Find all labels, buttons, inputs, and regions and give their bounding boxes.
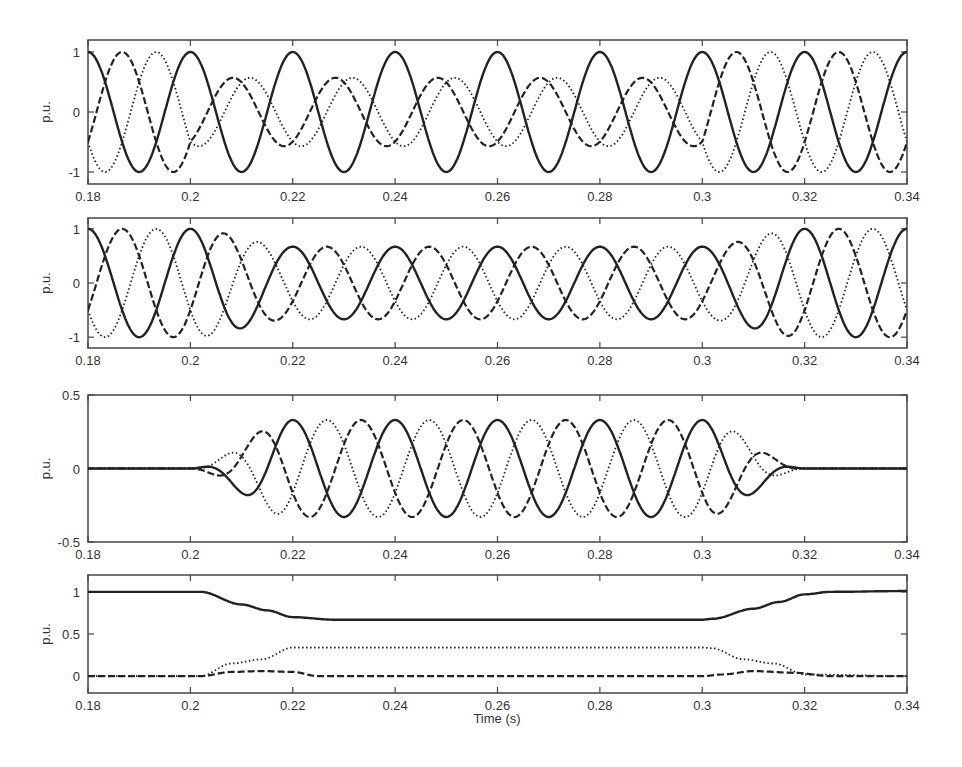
x-tick-label: 0.32: [792, 353, 817, 368]
y-tick-label: 1: [73, 222, 80, 237]
series-phase-c: [88, 52, 907, 172]
series-phase-c: [88, 420, 907, 517]
x-tick-label: 0.2: [181, 353, 199, 368]
axes-frame: [88, 395, 907, 542]
x-tick-label: 0.28: [587, 189, 612, 204]
series-phase-b: [88, 229, 907, 337]
y-tick-label: 1: [73, 45, 80, 60]
axes-frame: [88, 218, 907, 348]
y-tick-label: -1: [68, 165, 80, 180]
panel-4: 0.180.20.220.240.260.280.30.320.3400.51p…: [38, 575, 920, 713]
x-tick-label: 0.32: [792, 547, 817, 562]
y-axis-label: p.u.: [38, 458, 53, 480]
x-tick-label: 0.3: [693, 353, 711, 368]
x-tick-label: 0.24: [382, 547, 407, 562]
x-tick-label: 0.26: [485, 189, 510, 204]
y-tick-label: -0.5: [58, 535, 80, 550]
x-tick-label: 0.22: [280, 353, 305, 368]
x-tick-label: 0.22: [280, 698, 305, 713]
series-phase-b: [88, 52, 907, 172]
y-axis-label: p.u.: [38, 623, 53, 645]
series-phase-b: [88, 420, 907, 517]
y-tick-label: 0.5: [62, 388, 80, 403]
panel-2: 0.180.20.220.240.260.280.30.320.34-101p.…: [38, 218, 920, 368]
x-tick-label: 0.26: [485, 547, 510, 562]
x-tick-label: 0.34: [894, 189, 919, 204]
x-tick-label: 0.2: [181, 547, 199, 562]
x-tick-label: 0.18: [75, 353, 100, 368]
y-axis-label: p.u.: [38, 101, 53, 123]
x-tick-label: 0.34: [894, 353, 919, 368]
panel-3: 0.180.20.220.240.260.280.30.320.34-0.500…: [38, 388, 920, 562]
x-tick-label: 0.24: [382, 353, 407, 368]
y-axis-label: p.u.: [38, 272, 53, 294]
series-phase-a: [88, 52, 907, 172]
x-tick-label: 0.2: [181, 189, 199, 204]
x-tick-label: 0.3: [693, 189, 711, 204]
y-tick-label: 0: [73, 276, 80, 291]
x-tick-label: 0.34: [894, 547, 919, 562]
x-tick-label: 0.18: [75, 698, 100, 713]
x-axis-label: Time (s): [473, 711, 520, 726]
x-tick-label: 0.3: [693, 698, 711, 713]
figure: 0.180.20.220.240.260.280.30.320.34-101p.…: [0, 0, 962, 767]
x-tick-label: 0.18: [75, 189, 100, 204]
y-tick-label: 0: [73, 462, 80, 477]
x-tick-label: 0.32: [792, 698, 817, 713]
x-tick-label: 0.32: [792, 189, 817, 204]
x-tick-label: 0.28: [587, 698, 612, 713]
panel-1: 0.180.20.220.240.260.280.30.320.34-101p.…: [38, 40, 920, 204]
axes-frame: [88, 40, 907, 184]
x-tick-label: 0.22: [280, 189, 305, 204]
x-tick-label: 0.3: [693, 547, 711, 562]
y-tick-label: 0: [73, 669, 80, 684]
series-zero-sequence-magnitude: [88, 671, 907, 676]
y-tick-label: 0: [73, 105, 80, 120]
y-tick-label: 0.5: [62, 627, 80, 642]
series-phase-a: [88, 229, 907, 337]
x-tick-label: 0.24: [382, 189, 407, 204]
x-tick-label: 0.28: [587, 547, 612, 562]
y-tick-label: -1: [68, 330, 80, 345]
x-tick-label: 0.28: [587, 353, 612, 368]
x-tick-label: 0.34: [894, 698, 919, 713]
x-tick-label: 0.24: [382, 698, 407, 713]
x-tick-label: 0.2: [181, 698, 199, 713]
series-positive-sequence-magnitude: [88, 591, 907, 620]
x-tick-label: 0.26: [485, 353, 510, 368]
series-phase-c: [88, 229, 907, 337]
series-phase-a: [88, 420, 907, 517]
y-tick-label: 1: [73, 585, 80, 600]
x-tick-label: 0.22: [280, 547, 305, 562]
series-negative-sequence-magnitude: [88, 648, 907, 677]
